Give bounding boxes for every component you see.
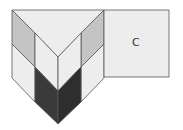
net-diagram: C	[0, 0, 183, 130]
square-label: C	[132, 36, 140, 49]
